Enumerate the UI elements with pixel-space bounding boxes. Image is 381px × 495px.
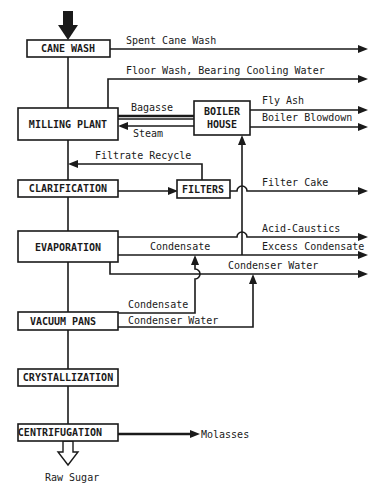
arrow-up-icon	[191, 255, 199, 265]
stage-vacuum-pans: VACUUM PANS	[18, 312, 118, 330]
filter-cake-label: Filter Cake	[262, 177, 328, 188]
stage-label: CRYSTALLIZATION	[23, 372, 113, 383]
stage-label: HOUSE	[207, 119, 237, 130]
acid-caustics-label: Acid-Caustics	[262, 223, 340, 234]
spent-cane-wash-label: Spent Cane Wash	[126, 35, 216, 46]
stage-label: VACUUM PANS	[30, 316, 96, 327]
floor-wash-label: Floor Wash, Bearing Cooling Water	[126, 65, 325, 76]
stage-milling-plant: MILLING PLANT	[18, 108, 118, 140]
raw-sugar-arrow-icon	[58, 441, 78, 465]
arrow-right-icon	[358, 270, 368, 278]
stage-label: CLARIFICATION	[29, 183, 107, 194]
arrow-up-icon	[238, 135, 246, 145]
arrow-left-icon	[118, 122, 128, 130]
arrow-right-icon	[358, 106, 368, 114]
filtrate-recycle-label: Filtrate Recycle	[95, 150, 191, 161]
raw-sugar-label: Raw Sugar	[45, 472, 99, 483]
steam-label: Steam	[133, 128, 163, 139]
stage-filters: FILTERS	[177, 180, 230, 198]
boiler-blowdown-label: Boiler Blowdown	[262, 112, 352, 123]
stage-evaporation: EVAPORATION	[18, 231, 118, 262]
arrow-right-icon	[358, 187, 368, 195]
fly-ash-label: Fly Ash	[262, 95, 304, 106]
input-arrow-icon	[58, 11, 78, 40]
arrow-right-icon	[358, 251, 368, 259]
excess-condensate-label: Excess Condensate	[262, 241, 364, 252]
stage-crystallization: CRYSTALLIZATION	[18, 369, 118, 386]
arrow-right-icon	[358, 233, 368, 241]
arrow-right-icon	[358, 123, 368, 131]
stage-cane-wash: CANE WASH	[27, 40, 110, 57]
stage-label: CENTRIFUGATION	[18, 427, 102, 438]
stage-label: MILLING PLANT	[29, 119, 107, 130]
arrow-right-icon	[358, 45, 368, 53]
stage-centrifugation: CENTRIFUGATION	[18, 424, 118, 441]
stage-clarification: CLARIFICATION	[18, 180, 118, 197]
bagasse-label: Bagasse	[131, 102, 173, 113]
pans-condenser-water-label: Condenser Water	[128, 315, 218, 326]
pans-condensate-label: Condensate	[128, 299, 188, 310]
stage-label: EVAPORATION	[35, 242, 101, 253]
evap-condensate-label: Condensate	[150, 241, 210, 252]
filtrate-recycle-line	[76, 164, 202, 180]
stage-label: FILTERS	[182, 184, 224, 195]
arrow-right-icon	[358, 75, 368, 83]
stage-boiler-house: BOILER HOUSE	[194, 101, 250, 135]
stage-label: BOILER	[204, 106, 241, 117]
molasses-label: Molasses	[201, 429, 249, 440]
arrow-up-icon	[249, 274, 257, 284]
arrow-left-icon	[68, 160, 78, 168]
sugar-process-flow-diagram: Spent Cane Wash Floor Wash, Bearing Cool…	[0, 0, 381, 495]
condenser-water-label: Condenser Water	[228, 260, 318, 271]
stage-label: CANE WASH	[41, 43, 95, 54]
arrow-right-icon	[190, 430, 200, 438]
